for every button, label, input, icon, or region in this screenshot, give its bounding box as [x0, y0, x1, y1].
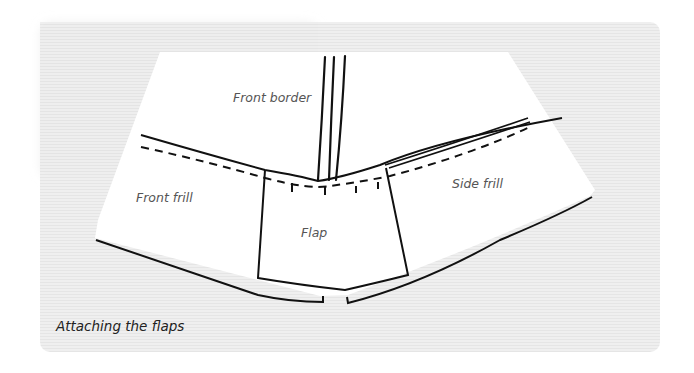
label-front-border: Front border — [233, 90, 312, 105]
flap-attachment-diagram: Front border Front frill Flap Side frill… — [0, 0, 694, 373]
figure-caption: Attaching the flaps — [55, 318, 184, 334]
label-front-frill: Front frill — [136, 190, 193, 205]
diagram-canvas: Front border Front frill Flap Side frill… — [0, 0, 694, 373]
label-side-frill: Side frill — [452, 176, 503, 191]
label-flap: Flap — [301, 225, 327, 240]
